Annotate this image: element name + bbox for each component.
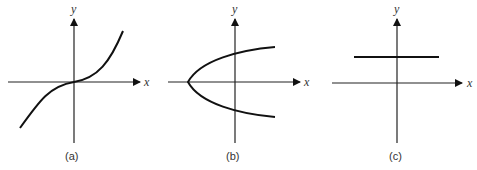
x-axis-label: x (466, 76, 473, 90)
caption-c: (c) (389, 150, 402, 162)
panel-c: x y (c) (332, 2, 473, 162)
y-axis-label: y (70, 2, 77, 16)
panel-b: x y (b) (168, 2, 310, 162)
panel-a: x y (a) (8, 2, 150, 162)
y-axis-label: y (393, 2, 400, 16)
x-axis-label: x (143, 75, 150, 89)
x-axis-label: x (303, 75, 310, 89)
graphs-figure: x y (a) x y (b) x y (c) (0, 0, 477, 170)
caption-b: (b) (226, 150, 239, 162)
cubic-curve (20, 31, 123, 128)
y-axis-label: y (231, 2, 238, 16)
caption-a: (a) (65, 150, 78, 162)
